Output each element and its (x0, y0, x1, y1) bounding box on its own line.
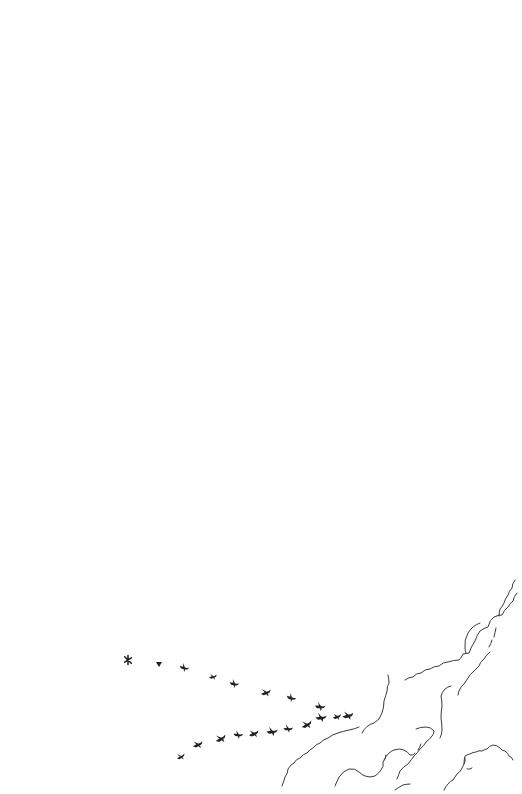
bird-icon (266, 727, 278, 737)
bird-icon (176, 752, 187, 762)
bird-icon (260, 688, 272, 698)
bird-flock-upper (125, 656, 327, 713)
cloud-icon (362, 675, 389, 733)
bird-icon (248, 728, 260, 739)
cloud-icon (458, 652, 490, 695)
illustration-canvas: Pen-and-ink sketch: a flock of birds fly… (0, 0, 522, 794)
bird-flock-lower (176, 711, 354, 762)
bird-icon (192, 739, 204, 750)
bird-icon (214, 732, 228, 744)
bird-icon (156, 662, 162, 667)
cloud-icon (440, 686, 451, 738)
bird-icon (178, 662, 190, 673)
cloud-icon (335, 755, 386, 786)
cloud-icon (444, 745, 513, 790)
sketch-artwork (0, 0, 522, 794)
cloud-icon (489, 580, 515, 647)
cloud-icon (464, 758, 472, 769)
bird-icon (342, 711, 354, 721)
bird-icon (332, 712, 342, 721)
cloud-icon (384, 744, 421, 760)
bird-icon (314, 701, 326, 712)
bird-icon (228, 678, 240, 689)
bird-icon (283, 724, 294, 733)
bird-icon (300, 718, 314, 730)
cloud-icon (465, 623, 480, 653)
cloud-icon (405, 593, 517, 680)
cloud-outlines (282, 580, 517, 790)
cloud-icon (395, 784, 410, 790)
bird-icon (125, 656, 132, 665)
cloud-icon (282, 727, 359, 786)
bird-icon (209, 673, 218, 680)
bird-icon (232, 730, 243, 740)
bird-icon (285, 692, 297, 703)
bird-icon (315, 713, 327, 723)
